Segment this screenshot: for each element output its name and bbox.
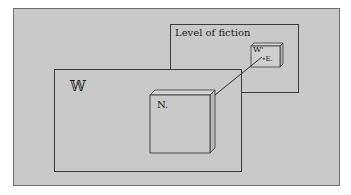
w-prime-label: W' — [253, 45, 263, 54]
e-label: ∘E. — [262, 55, 273, 63]
fiction-level-label: Level of fiction — [175, 27, 250, 38]
world-label: 𝕎 — [70, 78, 85, 94]
n-label: N. — [157, 99, 168, 110]
